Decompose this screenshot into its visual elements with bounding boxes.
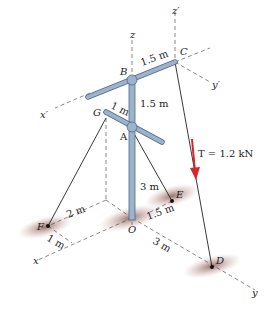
force-label: T = 1.2 kN bbox=[198, 148, 254, 159]
point-D-label: D bbox=[215, 255, 224, 266]
point-G-label: G bbox=[93, 107, 101, 118]
point-E-label: E bbox=[175, 189, 184, 200]
dim-AB: 1.5 m bbox=[140, 98, 169, 109]
point-F-label: F bbox=[36, 221, 45, 232]
point-O-label: O bbox=[128, 224, 136, 235]
axis-y-prime-label: y′ bbox=[211, 79, 221, 90]
axis-x-prime-label: x′ bbox=[40, 109, 49, 120]
dim-OD: 3 m bbox=[151, 235, 173, 254]
point-D bbox=[210, 265, 214, 269]
point-B-label: B bbox=[119, 66, 127, 77]
axis-y-label: y bbox=[251, 287, 258, 298]
axis-z-prime-label: z′ bbox=[171, 5, 180, 16]
force-arrow bbox=[190, 139, 200, 180]
point-F bbox=[46, 224, 50, 228]
axis-x-label: x bbox=[33, 255, 39, 266]
dim-OA: 3 m bbox=[140, 181, 160, 192]
statics-diagram: z z′ C y′ B 1.5 m 1.5 m x′ G 1 m A T = 1… bbox=[0, 0, 269, 312]
point-A-label: A bbox=[119, 131, 128, 142]
dim-F-x: 2 m bbox=[65, 203, 87, 220]
dim-F-offset: 1 m bbox=[45, 232, 67, 251]
point-C-label: C bbox=[180, 46, 188, 57]
axis-z-label: z bbox=[129, 29, 136, 40]
